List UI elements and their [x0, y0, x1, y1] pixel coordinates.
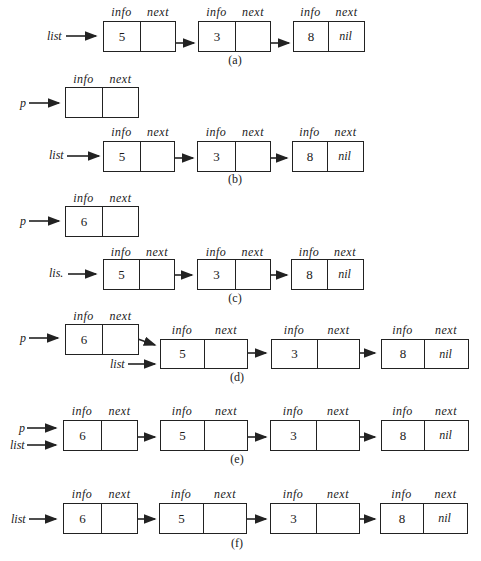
field-header-info: info — [103, 5, 140, 20]
info-cell: 3 — [198, 260, 236, 289]
info-cell: 8 — [382, 340, 425, 368]
list-node: 3 — [197, 141, 271, 172]
field-header-next: next — [101, 487, 138, 502]
list-node: 3 — [270, 503, 360, 534]
field-header-next: next — [102, 309, 139, 324]
info-cell: 5 — [161, 340, 205, 368]
field-header-info: info — [65, 309, 102, 324]
info-cell: 3 — [271, 421, 317, 450]
list-node: 3 — [270, 420, 360, 451]
next-cell-nil: nil — [326, 260, 363, 289]
list-node: 5 — [103, 21, 176, 52]
info-cell: 8 — [382, 421, 425, 450]
caption-a: (a) — [220, 53, 250, 68]
field-header-next: next — [204, 404, 248, 419]
field-header-next: next — [140, 125, 176, 140]
p-node — [65, 87, 139, 118]
field-header-info: info — [103, 125, 140, 140]
field-header-next: next — [101, 404, 138, 419]
list-node: 8 nil — [380, 503, 468, 534]
list-node: 8 nil — [381, 420, 469, 451]
field-header-next: next — [203, 487, 247, 502]
info-cell: 6 — [64, 504, 102, 533]
field-header-next: next — [328, 5, 365, 20]
pointer-label-list: list — [10, 438, 25, 453]
p-node: 6 — [65, 206, 139, 237]
pointer-label-p: p — [20, 214, 26, 229]
pointer-label-p: p — [19, 421, 25, 436]
caption-d: (d) — [222, 370, 252, 385]
field-header-info: info — [293, 5, 328, 20]
next-cell-nil: nil — [326, 142, 363, 171]
next-cell — [100, 504, 137, 533]
field-header-info: info — [292, 125, 327, 140]
field-header-info: info — [291, 245, 327, 260]
pointer-label-p: p — [20, 96, 26, 111]
field-header-next: next — [327, 125, 364, 140]
field-header-next: next — [140, 5, 176, 20]
field-header-next: next — [235, 5, 271, 20]
field-header-next: next — [316, 487, 360, 502]
caption-c: (c) — [220, 291, 250, 306]
field-header-info: info — [103, 245, 139, 260]
info-cell: 8 — [381, 504, 424, 533]
caption-e: (e) — [222, 452, 252, 467]
next-cell — [101, 88, 138, 117]
info-cell: 6 — [66, 325, 103, 354]
list-node: 6 — [63, 420, 138, 451]
field-header-next: next — [316, 404, 360, 419]
next-cell-nil: nil — [423, 340, 468, 368]
list-node: 5 — [159, 503, 247, 534]
pointer-label-list: list — [47, 29, 62, 44]
next-cell — [202, 504, 246, 533]
field-header-next: next — [424, 404, 468, 419]
info-cell: 3 — [271, 504, 317, 533]
info-cell: 5 — [160, 504, 204, 533]
list-node: 8 nil — [293, 21, 365, 52]
next-cell-nil: nil — [422, 504, 467, 533]
list-node: 5 — [160, 420, 248, 451]
field-header-info: info — [270, 487, 316, 502]
list-node: 5 — [103, 259, 175, 290]
next-cell — [139, 22, 175, 51]
info-cell: 8 — [292, 260, 328, 289]
next-cell — [315, 421, 359, 450]
field-header-next: next — [235, 245, 270, 260]
field-header-next: next — [139, 245, 175, 260]
next-cell — [234, 22, 270, 51]
info-cell: 6 — [66, 207, 103, 236]
field-header-info: info — [197, 245, 235, 260]
pointer-label-list: list — [49, 148, 64, 163]
next-cell — [100, 421, 137, 450]
info-cell: 5 — [104, 142, 141, 171]
field-header-info: info — [381, 404, 424, 419]
field-header-info: info — [63, 487, 101, 502]
list-node: 5 — [103, 141, 175, 172]
field-header-next: next — [102, 191, 139, 206]
field-header-info: info — [197, 125, 235, 140]
list-node: 6 — [63, 503, 138, 534]
next-cell-nil: nil — [423, 421, 468, 450]
field-header-next: next — [204, 323, 248, 338]
info-cell: 3 — [198, 142, 236, 171]
list-node: 8 nil — [292, 141, 364, 172]
caption-b: (b) — [220, 172, 250, 187]
list-node: 8 nil — [381, 339, 469, 369]
field-header-info: info — [159, 487, 203, 502]
field-header-info: info — [270, 404, 316, 419]
list-node: 3 — [271, 339, 360, 369]
info-cell: 3 — [272, 340, 318, 368]
p-node: 6 — [65, 324, 139, 355]
list-node: 8 nil — [291, 259, 364, 290]
pointer-label-list: lis. — [49, 266, 63, 281]
info-cell — [66, 88, 103, 117]
next-cell — [101, 207, 138, 236]
info-cell: 8 — [294, 22, 329, 51]
info-cell: 5 — [104, 22, 141, 51]
field-header-info: info — [198, 5, 235, 20]
pointer-label-list: list — [110, 357, 125, 372]
next-cell — [101, 325, 138, 354]
info-cell: 5 — [161, 421, 205, 450]
field-header-info: info — [160, 404, 204, 419]
field-header-next: next — [327, 245, 363, 260]
